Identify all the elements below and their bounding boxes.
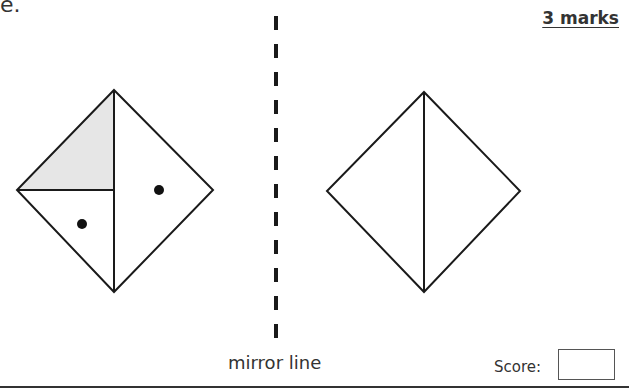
score-label: Score: bbox=[494, 358, 541, 376]
bottom-divider bbox=[0, 386, 629, 388]
left-diamond bbox=[17, 90, 213, 292]
mirror-line-label: mirror line bbox=[228, 352, 321, 373]
dot-right-region bbox=[154, 185, 164, 195]
dot-lower-left-region bbox=[77, 219, 87, 229]
symmetry-figure bbox=[0, 0, 629, 392]
right-diamond[interactable] bbox=[327, 92, 520, 292]
score-box[interactable] bbox=[558, 349, 615, 380]
